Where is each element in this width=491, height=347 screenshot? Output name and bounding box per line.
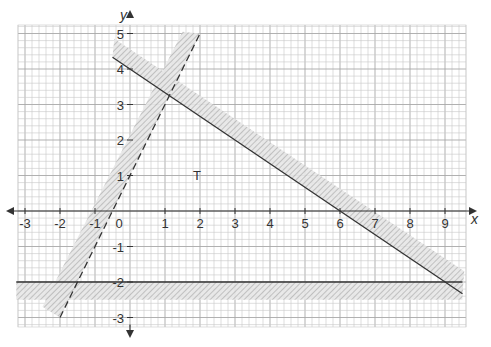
x-tick-label: 8 [406,216,413,231]
y-tick-label: -3 [112,311,124,326]
x-tick-label: -1 [89,216,101,231]
x-tick-label: 7 [371,216,378,231]
y-tick-label: 4 [117,62,124,77]
x-tick-label: 1 [161,216,168,231]
x-tick-label: 5 [301,216,308,231]
x-tick-label: 6 [336,216,343,231]
inequality-graph: -3-2-1123456789054321-1-2-3 x y T [0,0,491,347]
origin-label: 0 [115,216,122,231]
y-tick-label: -1 [112,240,124,255]
y-axis-label: y [119,7,128,23]
y-tick-label: 3 [117,98,124,113]
shaded-band-horizontal-line [16,282,462,300]
x-axis-label: x [470,211,479,227]
x-tick-label: -2 [54,216,66,231]
x-tick-label: 9 [441,216,448,231]
x-tick-label: 3 [231,216,238,231]
tick-labels: -3-2-1123456789054321-1-2-3 [19,27,448,326]
y-tick-label: -2 [112,275,124,290]
y-tick-label: 5 [117,27,124,42]
x-tick-label: 4 [266,216,273,231]
x-tick-label: -3 [19,216,31,231]
y-tick-label: 1 [117,169,124,184]
y-tick-label: 2 [117,133,124,148]
x-tick-label: 2 [196,216,203,231]
region-label-t: T [193,168,201,183]
